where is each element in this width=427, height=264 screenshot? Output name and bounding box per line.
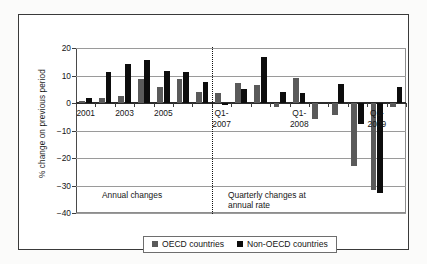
bar-oecd — [332, 103, 338, 115]
x-tick-mark — [367, 103, 368, 107]
x-tick-mark — [387, 103, 388, 107]
gridline — [76, 48, 406, 49]
y-tick-mark — [72, 186, 76, 187]
x-tick-mark — [309, 103, 310, 107]
bar-oecd — [177, 79, 183, 103]
y-tick-label: −40 — [57, 208, 71, 218]
legend-item-non-oecd: Non-OECD countries — [237, 239, 328, 249]
bar-non-oecd — [241, 89, 247, 103]
plot-area: 20100−10−20−30−40 200120032005Q1- 2007Q1… — [76, 48, 406, 213]
bar-non-oecd — [164, 71, 170, 103]
bar-oecd — [351, 103, 357, 166]
chart-figure: % change on previous period 20100−10−20−… — [0, 0, 427, 264]
bar-non-oecd — [183, 72, 189, 103]
section-divider — [212, 47, 213, 214]
x-tick-label: 2001 — [76, 108, 95, 119]
bar-non-oecd — [86, 98, 92, 103]
x-tick-mark — [251, 103, 252, 107]
y-tick-mark — [72, 48, 76, 49]
bar-oecd — [138, 79, 144, 103]
x-tick-label: 2003 — [115, 108, 134, 119]
x-tick-mark — [328, 103, 329, 107]
bar-non-oecd — [338, 84, 344, 103]
bar-oecd — [157, 87, 163, 104]
legend-label-oecd: OECD countries — [162, 239, 224, 249]
x-tick-mark — [134, 103, 135, 107]
bar-oecd — [254, 85, 260, 103]
y-tick-mark — [72, 213, 76, 214]
x-tick-mark — [115, 103, 116, 107]
y-tick-label: 10 — [62, 71, 71, 81]
bar-oecd — [390, 103, 396, 107]
legend-label-non-oecd: Non-OECD countries — [247, 239, 328, 249]
bar-non-oecd — [397, 87, 403, 103]
bar-non-oecd — [358, 103, 364, 124]
gridline — [76, 186, 406, 187]
bar-oecd — [99, 98, 105, 104]
bar-non-oecd — [261, 57, 267, 103]
x-tick-label: Q1- 2008 — [290, 108, 309, 129]
bar-oecd — [312, 103, 318, 119]
x-tick-label: Q1- 2007 — [212, 108, 231, 129]
y-tick-mark — [72, 76, 76, 77]
bar-non-oecd — [203, 82, 209, 103]
x-tick-mark — [290, 103, 291, 107]
bar-oecd — [274, 103, 280, 107]
x-tick-mark — [192, 103, 193, 107]
y-tick-label: −20 — [57, 153, 71, 163]
x-tick-mark — [173, 103, 174, 107]
annual-changes-note: Annual changes — [102, 190, 162, 201]
y-tick-label: 20 — [62, 43, 71, 53]
legend-swatch-non-oecd — [237, 241, 243, 247]
quarterly-changes-note: Quarterly changes at annual rate — [228, 190, 306, 211]
y-tick-mark — [72, 158, 76, 159]
y-axis-label: % change on previous period — [38, 44, 47, 204]
bar-oecd — [235, 83, 241, 103]
x-tick-mark — [231, 103, 232, 107]
legend-swatch-oecd — [152, 241, 158, 247]
bar-oecd — [215, 93, 221, 103]
legend-item-oecd: OECD countries — [152, 239, 224, 249]
x-tick-label: Q1- 2009 — [368, 108, 387, 129]
bar-non-oecd — [144, 60, 150, 103]
x-tick-mark — [406, 103, 407, 107]
bar-oecd — [79, 101, 85, 103]
bar-oecd — [196, 92, 202, 103]
x-tick-mark — [154, 103, 155, 107]
bar-non-oecd — [280, 92, 286, 103]
bar-non-oecd — [106, 72, 112, 103]
x-tick-mark — [95, 103, 96, 107]
x-tick-mark — [348, 103, 349, 107]
bar-oecd — [118, 96, 124, 103]
y-tick-mark — [72, 131, 76, 132]
chart-frame: % change on previous period 20100−10−20−… — [18, 14, 409, 250]
x-tick-mark — [270, 103, 271, 107]
bar-non-oecd — [300, 93, 306, 103]
bar-non-oecd — [125, 64, 131, 103]
gridline — [76, 213, 406, 214]
y-tick-label: −30 — [57, 181, 71, 191]
x-tick-label: 2005 — [154, 108, 173, 119]
x-tick-mark — [76, 103, 77, 107]
y-tick-label: 0 — [66, 98, 71, 108]
y-tick-label: −10 — [57, 126, 71, 136]
chart-legend: OECD countries Non-OECD countries — [143, 236, 337, 253]
bar-non-oecd — [222, 103, 228, 105]
bar-oecd — [293, 78, 299, 103]
